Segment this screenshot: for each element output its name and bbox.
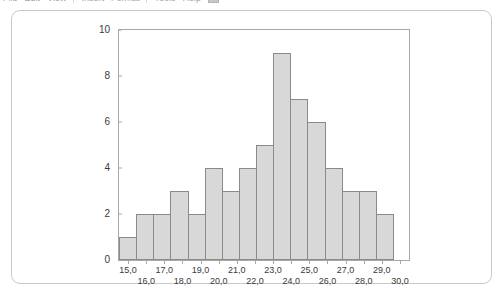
x-axis-tick-mark (364, 260, 365, 264)
x-axis-tick-mark (128, 260, 129, 264)
y-axis-tick-label: 6 (70, 117, 110, 127)
y-axis: 0246810 (70, 30, 118, 260)
x-axis-tick-mark (219, 260, 220, 264)
chart-card: 0246810 15,016,017,018,019,020,021,022,0… (11, 10, 492, 284)
x-axis-tick-mark (327, 260, 328, 264)
x-axis-tick-mark (146, 260, 147, 264)
x-axis-tick-mark (201, 260, 202, 264)
histogram-bar (119, 237, 137, 260)
histogram-bar (205, 168, 223, 260)
histogram-bar (290, 99, 308, 260)
histogram-bar (153, 214, 171, 260)
x-axis-tick-label: 25,0 (301, 265, 319, 275)
x-axis-tick-mark (255, 260, 256, 264)
histogram-chart: 0246810 15,016,017,018,019,020,021,022,0… (12, 11, 491, 283)
y-axis-tick-label: 8 (70, 71, 110, 81)
x-axis-tick-label: 23,0 (264, 265, 282, 275)
histogram-bar (136, 214, 154, 260)
x-axis-tick-label: 29,0 (373, 265, 391, 275)
x-axis-tick-label: 28,0 (355, 276, 373, 286)
bars-container (119, 30, 409, 260)
x-axis-tick-label: 21,0 (228, 265, 246, 275)
histogram-bar (342, 191, 360, 260)
toolbar-icon-button[interactable] (208, 0, 219, 3)
x-axis-tick-label: 16,0 (137, 276, 155, 286)
toolbar-item-file[interactable]: File (3, 0, 18, 3)
x-axis-tick-label: 18,0 (174, 276, 192, 286)
histogram-bar (188, 214, 206, 260)
toolbar-separator-2 (146, 0, 147, 3)
toolbar-item-view[interactable]: View (47, 0, 66, 3)
histogram-bar (307, 122, 325, 260)
histogram-bar (256, 145, 274, 260)
x-axis-tick-mark (291, 260, 292, 264)
x-axis-tick-label: 15,0 (119, 265, 137, 275)
x-axis: 15,016,017,018,019,020,021,022,023,024,0… (119, 260, 411, 294)
plot-area (119, 30, 409, 260)
x-axis-tick-label: 22,0 (246, 276, 264, 286)
histogram-bar (273, 53, 291, 260)
x-axis-tick-label: 30,0 (391, 276, 409, 286)
y-axis-tick-label: 0 (70, 255, 110, 265)
x-axis-tick-mark (237, 260, 238, 264)
histogram-bar (170, 191, 188, 260)
histogram-bar (325, 168, 343, 260)
histogram-bar (359, 191, 377, 260)
x-axis-tick-mark (400, 260, 401, 264)
toolbar-item-insert[interactable]: Insert (81, 0, 104, 3)
clipped-toolbar: File Edit View Insert Format Tools Help (0, 0, 504, 7)
x-axis-tick-mark (164, 260, 165, 264)
y-axis-tick-label: 10 (70, 25, 110, 35)
y-axis-tick-label: 4 (70, 163, 110, 173)
toolbar-item-help[interactable]: Help (182, 0, 201, 3)
histogram-bar (222, 191, 240, 260)
x-axis-tick-label: 26,0 (319, 276, 337, 286)
x-axis-tick-label: 19,0 (192, 265, 210, 275)
x-axis-tick-label: 20,0 (210, 276, 228, 286)
x-axis-tick-mark (382, 260, 383, 264)
x-axis-tick-mark (273, 260, 274, 264)
x-axis-tick-mark (346, 260, 347, 264)
x-axis-tick-label: 27,0 (337, 265, 355, 275)
x-axis-tick-label: 24,0 (282, 276, 300, 286)
x-axis-tick-mark (309, 260, 310, 264)
histogram-bar (239, 168, 257, 260)
toolbar-item-edit[interactable]: Edit (25, 0, 41, 3)
x-axis-tick-label: 17,0 (156, 265, 174, 275)
toolbar-separator (73, 0, 74, 3)
y-axis-tick-label: 2 (70, 209, 110, 219)
toolbar-item-tools[interactable]: Tools (154, 0, 175, 3)
x-axis-tick-mark (182, 260, 183, 264)
toolbar-item-format[interactable]: Format (111, 0, 140, 3)
histogram-bar (376, 214, 394, 260)
